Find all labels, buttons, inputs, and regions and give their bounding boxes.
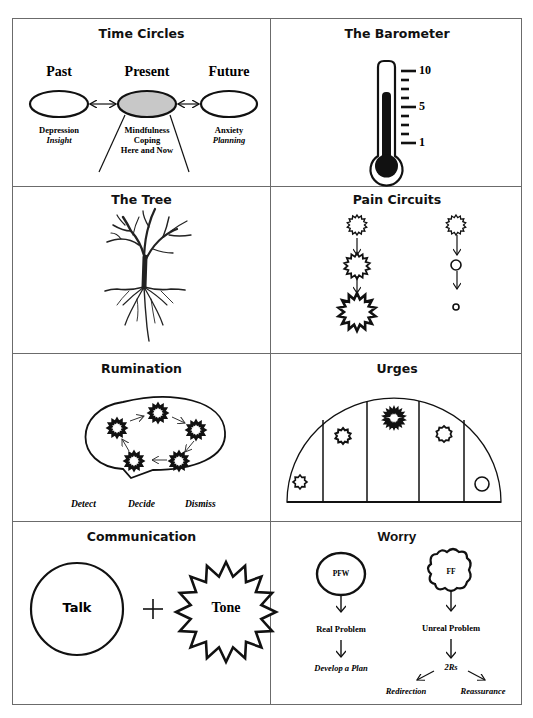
urge-peak-icon (385, 409, 403, 427)
thermometer-icon (271, 19, 523, 186)
reassurance-label: Reassurance (448, 686, 518, 696)
pain-burst-medium-icon (344, 253, 369, 279)
future-ellipse (201, 91, 257, 117)
rumination-speech-bubble (13, 354, 270, 521)
tree-with-roots-icon (13, 187, 270, 353)
past-ellipse (30, 91, 88, 117)
scale-label-10: 10 (419, 63, 431, 78)
scale-label-1: 1 (419, 135, 425, 150)
future-desc: Anxiety (193, 125, 265, 135)
pain-burst-small-icon (347, 215, 366, 235)
panel-time-circles: Time Circles Past Present Future (13, 19, 270, 186)
past-label: Past (29, 64, 89, 80)
urge-wave-diagram (271, 354, 523, 521)
unreal-problem-label: Unreal Problem (401, 623, 501, 633)
panel-communication: Communication Talk Tone (13, 522, 270, 706)
pfw-label: PFW (321, 569, 361, 578)
past-desc: Depression (23, 125, 95, 135)
two-rs-label: 2Rs (431, 662, 471, 672)
urge-falling-icon (436, 426, 451, 442)
develop-plan-label: Develop a Plan (286, 663, 396, 673)
future-label: Future (197, 64, 261, 80)
pain-burst-small-icon (446, 215, 465, 235)
plus-icon (143, 599, 163, 619)
present-ellipse (118, 91, 176, 117)
panel-tree: The Tree (13, 187, 270, 353)
circle-icon (475, 477, 489, 491)
de-escalating-circuit (446, 215, 465, 310)
dot-icon (453, 304, 459, 310)
step-decide: Decide (128, 499, 155, 509)
tone-label: Tone (196, 600, 256, 616)
present-desc-3: Here and Now (107, 145, 187, 155)
scale-label-5: 5 (419, 99, 425, 114)
present-desc-1: Mindfulness (107, 125, 187, 135)
circle-icon (451, 260, 461, 270)
urge-rising-icon (335, 428, 350, 444)
past-desc-italic: Insight (23, 135, 95, 145)
panel-pain-circuits: Pain Circuits (271, 187, 523, 353)
future-desc-italic: Planning (193, 135, 265, 145)
worry-flowchart (271, 522, 523, 706)
time-circles-diagram (13, 19, 270, 186)
escalating-circuit (339, 215, 376, 331)
panel-urges: Urges (271, 354, 523, 521)
panel-rumination: Rumination Detect Decide Dismiss (13, 354, 270, 521)
present-desc-2: Coping (107, 135, 187, 145)
pain-burst-large-icon (339, 293, 376, 331)
redirection-label: Redirection (371, 686, 441, 696)
present-label: Present (107, 64, 187, 80)
worksheet-grid: Time Circles Past Present Future (12, 18, 522, 705)
panel-barometer: The Barometer 10 5 1 (271, 19, 523, 186)
urge-low-icon (293, 475, 307, 489)
talk-label: Talk (47, 600, 107, 615)
real-problem-label: Real Problem (291, 624, 391, 634)
step-dismiss: Dismiss (185, 499, 216, 509)
step-detect: Detect (71, 499, 96, 509)
ff-label: FF (431, 567, 471, 576)
panel-worry: Worry PFW FF Real Problem Unreal Problem… (271, 522, 523, 706)
pain-circuits-diagram (271, 187, 523, 353)
